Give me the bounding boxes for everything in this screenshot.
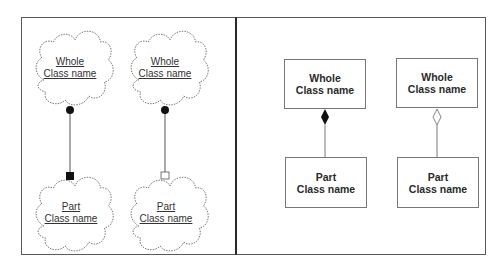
- whole-title: Whole: [309, 72, 341, 84]
- filled-square-icon: [66, 172, 74, 180]
- hollow-diamond-icon: [433, 109, 441, 125]
- whole-class-name: Class name: [125, 68, 205, 80]
- whole-class-box-2: Whole Class name: [396, 58, 478, 108]
- whole-class-name: Class name: [408, 83, 466, 95]
- part-title: Part: [31, 201, 111, 213]
- cloud-whole-label-1: Whole Class name: [30, 56, 110, 80]
- part-class-name: Class name: [31, 213, 111, 225]
- whole-title: Whole: [421, 71, 453, 83]
- hollow-square-icon: [161, 172, 169, 179]
- whole-class-name: Class name: [296, 84, 354, 96]
- filled-dot-icon: [66, 106, 74, 114]
- cloud-whole-label-2: Whole Class name: [125, 56, 205, 80]
- filled-dot-icon: [161, 106, 169, 114]
- whole-class-name: Class name: [30, 68, 110, 80]
- part-class-name: Class name: [297, 183, 355, 195]
- part-class-box-2: Part Class name: [397, 157, 479, 208]
- part-class-box-1: Part Class name: [285, 157, 367, 208]
- part-title: Part: [316, 171, 336, 183]
- cloud-part-label-1: Part Class name: [31, 201, 111, 225]
- cloud-part-label-2: Part Class name: [126, 201, 206, 225]
- filled-diamond-icon: [321, 109, 329, 125]
- whole-title: Whole: [30, 56, 110, 68]
- part-class-name: Class name: [409, 183, 467, 195]
- whole-title: Whole: [125, 56, 205, 68]
- part-title: Part: [126, 201, 206, 213]
- whole-class-box-1: Whole Class name: [284, 59, 366, 109]
- part-title: Part: [428, 171, 448, 183]
- part-class-name: Class name: [126, 213, 206, 225]
